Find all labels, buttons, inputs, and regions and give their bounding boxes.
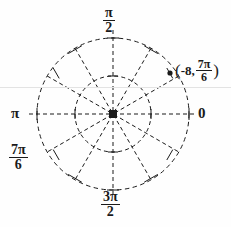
pole-marker [109, 110, 117, 118]
tick-outer-210 [53, 150, 59, 160]
point-close-paren: ) [213, 62, 219, 79]
point-marker[interactable] [167, 70, 172, 75]
tick-outer-330 [167, 150, 173, 160]
angle-label-pi-over-2: π 2 [103, 6, 115, 35]
angle-label-3pi-over-2-denominator: 2 [101, 205, 120, 219]
angle-label-pi: π [11, 106, 19, 121]
tick-outer-120 [68, 46, 82, 54]
angle-label-pi-over-2-numerator: π [103, 6, 115, 21]
polar-plot-figure: π 2 3π 2 π 0 7π 6 ( -8 , 7π 6 ) [0, 0, 231, 227]
angle-label-3pi-over-2-numerator: 3π [101, 190, 120, 205]
angle-label-zero: 0 [198, 106, 206, 121]
tick-outer-300 [144, 174, 158, 182]
point-coordinate-label: ( -8 , 7π 6 ) [175, 58, 219, 83]
point-theta-denominator: 6 [196, 71, 213, 83]
tick-outer-240 [68, 174, 82, 182]
angle-label-7pi-over-6-numerator: 7π [9, 143, 28, 158]
scan-artifact-line [0, 87, 231, 88]
point-separator: , [192, 64, 195, 77]
tick-outer-60 [144, 46, 158, 54]
tick-outer-150 [53, 68, 59, 78]
angle-label-pi-over-2-denominator: 2 [103, 21, 115, 35]
point-radius-value: -8 [181, 64, 192, 77]
angle-label-7pi-over-6-denominator: 6 [9, 158, 28, 172]
angle-label-3pi-over-2: 3π 2 [101, 190, 120, 219]
angle-label-7pi-over-6: 7π 6 [9, 143, 28, 172]
